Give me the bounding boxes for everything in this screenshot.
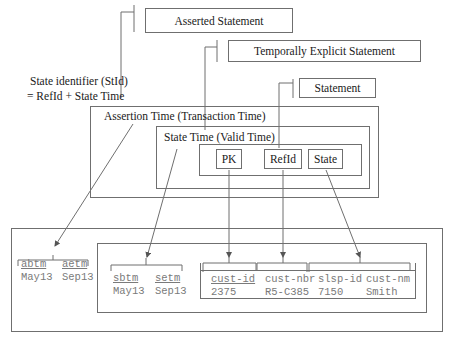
asserted-statement-box: Asserted Statement [145,8,293,33]
diagram-canvas: Asserted Statement Temporally Explicit S… [0,0,454,343]
data-row-top-border [200,270,416,272]
aetm-value: Sep13 [62,271,94,284]
sbtm-value: May13 [113,285,145,298]
cust-nm-header: cust-nm [366,273,410,286]
abtm-value: May13 [21,271,53,284]
cust-nbr-column: cust-nbr R5-C385 [265,273,315,299]
state-time-label: State Time (Valid Time) [164,131,275,143]
cust-nbr-header: cust-nbr [265,273,315,286]
slsp-id-value: 7150 [318,286,362,299]
aetm-header: aetm [62,258,94,271]
assertion-end-column: aetm Sep13 [62,258,94,284]
state-box: State [308,149,343,169]
slsp-id-header: slsp-id [318,273,362,286]
slsp-id-column: slsp-id 7150 [318,273,362,299]
pk-box: PK [216,149,242,169]
temporally-explicit-statement-box: Temporally Explicit Statement [228,40,421,62]
state-identifier-label-line1: State identifier (StId) [30,75,128,87]
setm-value: Sep13 [155,285,187,298]
statement-label: Statement [315,82,361,94]
cust-nm-value: Smith [366,286,410,299]
state-label: State [314,153,337,165]
cust-id-column: cust-id 2375 [211,273,255,299]
cust-nbr-value: R5-C385 [265,286,315,299]
cust-id-header: cust-id [211,273,255,286]
pk-label: PK [222,153,237,165]
sbtm-header: sbtm [113,272,145,285]
assertion-begin-column: abtm May13 [21,258,53,284]
state-end-column: setm Sep13 [155,272,187,298]
refid-box: RefId [264,149,302,169]
cust-id-value: 2375 [211,286,255,299]
state-identifier-label-line2: = RefId + State Time [27,90,124,102]
cust-nm-column: cust-nm Smith [366,273,410,299]
statement-box: Statement [299,78,376,98]
temporally-explicit-statement-label: Temporally Explicit Statement [254,45,395,57]
abtm-header: abtm [21,258,53,271]
setm-header: setm [155,272,187,285]
asserted-statement-label: Asserted Statement [174,15,263,27]
refid-label: RefId [270,153,296,165]
assertion-time-label: Assertion Time (Transaction Time) [104,110,266,122]
state-begin-column: sbtm May13 [113,272,145,298]
